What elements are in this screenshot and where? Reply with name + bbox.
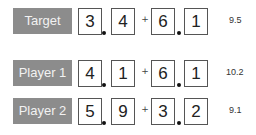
decimal-point-icon [102, 83, 106, 87]
decimal-point-icon [102, 121, 106, 125]
plus-icon: + [141, 14, 149, 24]
player-1-label: Player 1 [13, 60, 72, 86]
player-1-digit-2[interactable]: 1 [111, 60, 135, 87]
player-1-digit-3[interactable]: 6 [151, 60, 175, 87]
player-1-row: Player 1 4 1 + 6 1 10.2 [0, 60, 256, 87]
decimal-point-icon [177, 31, 181, 35]
plus-icon: + [141, 66, 149, 76]
target-label: Target [13, 8, 72, 34]
plus-icon: + [141, 104, 149, 114]
player-1-result: 10.2 [226, 67, 244, 77]
player-2-digit-2[interactable]: 9 [111, 98, 135, 125]
player-2-result: 9.1 [229, 105, 242, 115]
decimal-point-icon [177, 121, 181, 125]
target-digit-2: 4 [111, 8, 135, 35]
target-digit-1: 3 [78, 8, 102, 35]
player-1-digit-1[interactable]: 4 [78, 60, 102, 87]
target-result: 9.5 [229, 15, 242, 25]
target-digit-4: 1 [184, 8, 208, 35]
player-2-digit-1[interactable]: 5 [78, 98, 102, 125]
player-2-digit-4[interactable]: 2 [184, 98, 208, 125]
target-digit-3: 6 [151, 8, 175, 35]
decimal-point-icon [177, 83, 181, 87]
target-row: Target 3 4 + 6 1 9.5 [0, 8, 256, 35]
decimal-point-icon [102, 31, 106, 35]
player-2-label: Player 2 [13, 98, 72, 124]
player-2-digit-3[interactable]: 3 [151, 98, 175, 125]
player-2-row: Player 2 5 9 + 3 2 9.1 [0, 98, 256, 125]
player-1-digit-4[interactable]: 1 [184, 60, 208, 87]
